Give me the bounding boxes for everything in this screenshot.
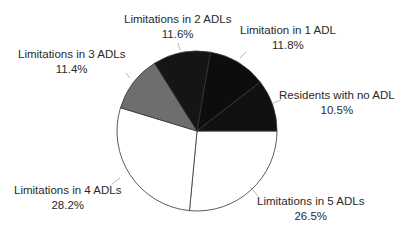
- label-1-adl: Limitation in 1 ADL 11.8%: [240, 23, 336, 53]
- label-5-adls-pct: 26.5%: [257, 209, 364, 224]
- label-3-adls-pct: 11.4%: [18, 62, 125, 77]
- label-4-adls: Limitations in 4 ADLs 28.2%: [14, 183, 121, 213]
- label-2-adls-pct: 11.6%: [124, 27, 231, 42]
- label-2-adls: Limitations in 2 ADLs 11.6%: [124, 12, 231, 42]
- leader-line-3-adls: [126, 73, 130, 78]
- leader-line-2-adls: [178, 43, 180, 50]
- label-3-adls-name: Limitations in 3 ADLs: [18, 47, 125, 62]
- label-1-adl-name: Limitation in 1 ADL: [240, 23, 336, 38]
- label-no-adl-pct: 10.5%: [279, 103, 395, 118]
- label-no-adl: Residents with no ADL 10.5%: [279, 88, 395, 118]
- label-4-adls-pct: 28.2%: [14, 198, 121, 213]
- label-4-adls-name: Limitations in 4 ADLs: [14, 183, 121, 198]
- label-5-adls: Limitations in 5 ADLs 26.5%: [257, 194, 364, 224]
- pie-slices: [117, 51, 277, 211]
- label-3-adls: Limitations in 3 ADLs 11.4%: [18, 47, 125, 77]
- label-no-adl-name: Residents with no ADL: [279, 88, 395, 103]
- label-5-adls-name: Limitations in 5 ADLs: [257, 194, 364, 209]
- label-2-adls-name: Limitations in 2 ADLs: [124, 12, 231, 27]
- label-1-adl-pct: 11.8%: [240, 38, 336, 53]
